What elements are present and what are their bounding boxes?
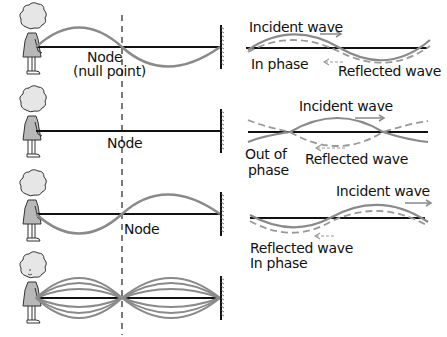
- incident-wave-label-1: Incident wave: [249, 20, 343, 34]
- incident-wave-label-2: Incident wave: [299, 99, 393, 113]
- phase-label: phase: [248, 163, 289, 177]
- node-label-1: Node: [87, 50, 122, 64]
- node-label-3: Node: [124, 222, 159, 236]
- reflected-wave-label-1: Reflected wave: [338, 64, 441, 78]
- phase-diagram-3: [250, 200, 431, 239]
- in-phase-label-3: In phase: [250, 256, 307, 270]
- reflected-wave-label-3: Reflected wave: [250, 241, 353, 255]
- reflected-wave-label-2: Reflected wave: [305, 152, 408, 166]
- standing-wave-diagram: [0, 0, 447, 337]
- incident-wave-label-3: Incident wave: [336, 184, 430, 198]
- in-phase-label-1: In phase: [251, 57, 308, 71]
- null-point-label: (null point): [73, 64, 146, 78]
- out-of-label: Out of: [245, 147, 287, 161]
- node-label-2: Node: [107, 136, 142, 150]
